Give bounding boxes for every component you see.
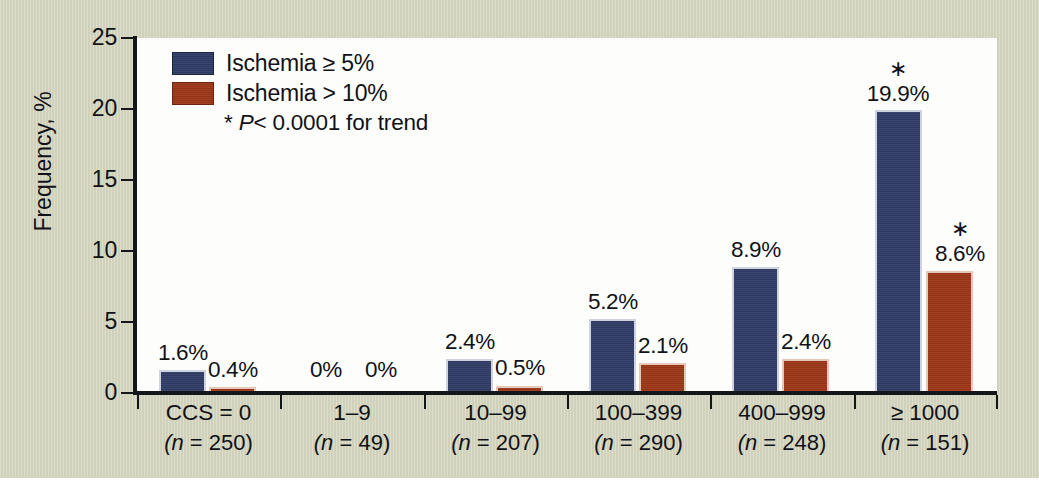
bar-label-ischemia10-100-399: 2.1% xyxy=(625,333,701,359)
bar-label-ischemia10-400-999: 2.4% xyxy=(768,329,844,355)
x-category-label-4: 400–999 xyxy=(710,398,854,428)
legend-item-ischemia-10: Ischemia > 10% xyxy=(172,80,428,107)
x-category-100-399: 100–399 (n = 290) xyxy=(567,398,710,457)
x-category-count-3: (n = 290) xyxy=(567,428,710,457)
x-category-label-3: 100–399 xyxy=(567,398,710,428)
y-tick-label-10: 10 xyxy=(73,237,117,264)
plot-area: Ischemia ≥ 5% Ischemia > 10% * P< 0.0001… xyxy=(137,38,997,393)
legend-significance-note: * P< 0.0001 for trend xyxy=(224,110,428,136)
bar-label-ischemia5-400-999: 8.9% xyxy=(718,237,794,263)
x-tick-6 xyxy=(996,395,998,409)
bar-label-ischemia10-ccs-0: 0.4% xyxy=(195,357,271,383)
legend-note-star: * xyxy=(224,110,233,135)
x-category-count-4: (n = 248) xyxy=(710,428,854,457)
legend-label-ischemia-5: Ischemia ≥ 5% xyxy=(226,50,374,77)
y-axis-line xyxy=(133,36,137,395)
y-tick-label-15: 15 xyxy=(73,166,117,193)
figure-container: Frequency, % 25 20 15 10 5 0 Ischemia ≥ … xyxy=(0,0,1039,488)
x-category-label-5: ≥ 1000 xyxy=(854,398,996,428)
x-category-400-999: 400–999 (n = 248) xyxy=(710,398,854,457)
x-category-ccs-0: CCS = 0 (n = 250) xyxy=(137,398,280,457)
bar-ischemia10-100-399 xyxy=(639,363,686,393)
y-tick-label-0: 0 xyxy=(73,379,117,406)
y-tick-label-20: 20 xyxy=(73,95,117,122)
legend-note-p: P xyxy=(239,110,254,135)
legend-swatch-red xyxy=(172,82,214,105)
x-category-count-5: (n = 151) xyxy=(854,428,996,457)
bar-label-ischemia10-10-99: 0.5% xyxy=(482,355,558,381)
x-axis-line xyxy=(133,391,997,395)
significance-star-ischemia10-ge-1000: ∗ xyxy=(911,218,1009,240)
bar-label-ischemia5-ge-1000: 19.9% xyxy=(849,81,947,107)
x-category-ge-1000: ≥ 1000 (n = 151) xyxy=(854,398,996,457)
bar-label-ischemia5-100-399: 5.2% xyxy=(575,289,651,315)
x-category-10-99: 10–99 (n = 207) xyxy=(424,398,567,457)
x-category-label-2: 10–99 xyxy=(424,398,567,428)
x-category-label-0: CCS = 0 xyxy=(137,398,280,428)
bar-ischemia10-400-999 xyxy=(782,359,829,393)
legend-swatch-blue xyxy=(172,52,214,75)
y-axis-title: Frequency, % xyxy=(30,22,57,302)
bar-label-ischemia10-ge-1000: 8.6% xyxy=(911,241,1009,267)
x-category-label-1: 1–9 xyxy=(280,398,424,428)
bar-label-ischemia10-1-9: 0% xyxy=(343,357,419,383)
x-category-count-2: (n = 207) xyxy=(424,428,567,457)
legend-note-rest: < 0.0001 for trend xyxy=(253,110,428,135)
x-category-count-1: (n = 49) xyxy=(280,428,424,457)
legend-label-ischemia-10: Ischemia > 10% xyxy=(226,80,387,107)
x-category-count-0: (n = 250) xyxy=(137,428,280,457)
y-tick-label-5: 5 xyxy=(73,308,117,335)
bar-label-ischemia5-10-99: 2.4% xyxy=(432,329,508,355)
y-tick-label-25: 25 xyxy=(73,24,117,51)
significance-star-ischemia5-ge-1000: ∗ xyxy=(849,58,947,80)
legend-item-ischemia-5: Ischemia ≥ 5% xyxy=(172,50,428,77)
x-category-1-9: 1–9 (n = 49) xyxy=(280,398,424,457)
legend: Ischemia ≥ 5% Ischemia > 10% * P< 0.0001… xyxy=(172,50,428,136)
bar-ischemia10-ge-1000 xyxy=(926,271,973,393)
